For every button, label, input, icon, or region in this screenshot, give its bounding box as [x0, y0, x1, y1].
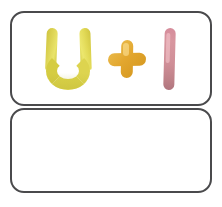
answer-box[interactable] — [10, 108, 212, 193]
equation-row: U + I — [12, 13, 210, 104]
plus-sign-icon[interactable]: + — [108, 40, 146, 78]
letter-i-label: I — [163, 28, 164, 29]
card-sheet: U + I U + I — [0, 0, 222, 207]
plus-vertical-bar — [121, 39, 134, 77]
plus-sign-label: + — [108, 40, 109, 41]
prompt-box[interactable]: U + I U + I — [10, 11, 212, 106]
letter-i-stroke — [163, 27, 176, 89]
answer-box-content — [12, 110, 13, 111]
letter-i-icon[interactable]: I — [163, 28, 177, 90]
letter-u-label: U — [45, 28, 46, 29]
letter-u-icon[interactable]: U — [45, 28, 91, 90]
letter-u-bowl — [46, 52, 90, 90]
